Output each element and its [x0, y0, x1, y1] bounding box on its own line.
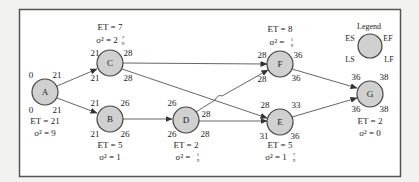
legend-ls: LS [345, 55, 354, 64]
node-c-lf: 28 [124, 73, 134, 83]
node-b-et: ET = 5 [98, 140, 123, 150]
node-e-et: ET = 5 [268, 140, 293, 150]
node-a-label: A [42, 87, 49, 97]
node-d-variance: σ² = [176, 152, 191, 162]
legend-circle [358, 34, 382, 58]
node-f-variance: σ² = [270, 37, 285, 47]
node-c-et: ET = 7 [98, 22, 123, 32]
node-a-et: ET = 21 [30, 116, 59, 126]
node-b-variance: σ² = 1 [99, 152, 121, 162]
node-b-label: B [107, 114, 113, 124]
legend-title: Legend [357, 22, 381, 31]
node-d-lf: 28 [201, 129, 211, 139]
node-a-es: 0 [29, 70, 34, 80]
node-a-lf: 21 [53, 105, 62, 115]
legend-ef: EF [383, 34, 393, 43]
node-a-ls: 0 [29, 105, 34, 115]
node-g-ef: 38 [380, 72, 390, 82]
node-a-ef: 21 [53, 70, 62, 80]
node-c-ls: 21 [91, 73, 100, 83]
node-d-et: ET = 2 [174, 140, 199, 150]
node-e-es: 28 [261, 100, 271, 110]
node-f-ef: 36 [294, 50, 304, 60]
node-f-label: F [277, 59, 282, 69]
legend-es: ES [345, 34, 354, 43]
node-c-ef: 28 [124, 48, 134, 58]
node-g-ls: 36 [352, 104, 362, 114]
node-e-ef: 33 [292, 100, 302, 110]
node-e-label: E [277, 117, 283, 127]
node-b-ls: 21 [91, 129, 100, 139]
node-f-ls: 28 [258, 74, 268, 84]
node-g-lf: 38 [380, 104, 390, 114]
node-f-es: 28 [258, 50, 268, 60]
node-d-label: D [183, 115, 190, 125]
node-g-variance: σ² = 0 [359, 128, 381, 138]
node-e: E 28 33 31 36 ET = 5 σ² = 1 7 9 [260, 100, 302, 163]
node-d-es: 26 [168, 98, 178, 108]
node-c-es: 21 [91, 48, 100, 58]
node-g-label: G [367, 89, 374, 99]
node-f-lf: 36 [292, 73, 302, 83]
node-g-et: ET = 2 [358, 116, 383, 126]
node-g-es: 36 [352, 72, 362, 82]
node-d-ef: 28 [202, 109, 212, 119]
node-c-label: C [107, 58, 113, 68]
pert-network-diagram: A 0 21 0 21 ET = 21 σ² = 9 ET = 7 σ² = 2… [0, 0, 419, 182]
node-b-lf: 26 [121, 129, 131, 139]
legend-lf: LF [384, 55, 394, 64]
diagram-frame [20, 10, 401, 177]
node-f-et: ET = 8 [268, 24, 293, 34]
node-d-ls: 26 [168, 129, 178, 139]
node-b-es: 21 [91, 98, 100, 108]
node-a-variance: σ² = 9 [34, 128, 56, 138]
node-b-ef: 26 [121, 98, 131, 108]
node-c-variance: σ² = 2 [96, 35, 118, 45]
node-e-variance: σ² = 1 [265, 152, 287, 162]
